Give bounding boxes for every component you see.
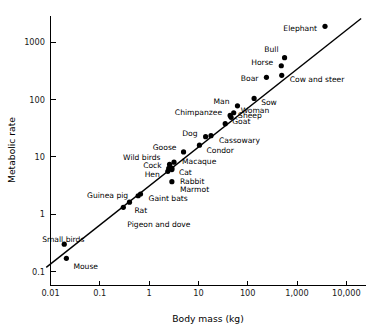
data-point	[279, 73, 284, 78]
data-point-label: Mouse	[73, 262, 98, 271]
x-axis-ticks: 0.010.11101001,00010,000	[41, 281, 360, 299]
x-axis-title: Body mass (kg)	[172, 313, 244, 324]
x-tick-label: 0.1	[93, 288, 106, 298]
y-tick-label: 10	[35, 152, 45, 162]
data-point	[203, 134, 208, 139]
data-point-label: Condor	[206, 146, 234, 155]
y-tick-label: 1	[40, 209, 45, 219]
data-point-label: Sow	[261, 98, 277, 107]
data-point	[208, 133, 213, 138]
y-tick-label: 0.1	[32, 267, 45, 277]
x-tick-label: 100	[240, 288, 256, 298]
data-point	[235, 103, 240, 108]
data-point-label: Hen	[145, 170, 160, 179]
y-axis-title: Metabolic rate	[6, 117, 17, 183]
data-point-label: Cat	[179, 168, 192, 177]
data-point-label: Gaint bats	[149, 194, 188, 203]
data-point	[169, 167, 174, 172]
data-point	[181, 149, 186, 154]
x-tick-label: 1	[146, 288, 151, 298]
x-tick-label: 0.01	[41, 288, 59, 298]
data-point	[169, 179, 174, 184]
data-point	[171, 160, 176, 165]
data-point	[121, 205, 126, 210]
data-point	[322, 24, 327, 29]
data-point	[252, 96, 257, 101]
y-tick-label: 100	[29, 95, 45, 105]
data-point-label: Cow and steer	[290, 75, 346, 84]
regression-line	[46, 19, 361, 268]
data-point	[264, 75, 269, 80]
data-point-label: Pigeon and dove	[127, 220, 191, 229]
data-point	[282, 55, 287, 60]
data-point	[279, 63, 284, 68]
data-point	[197, 143, 202, 148]
data-point	[231, 110, 236, 115]
data-point-label: Cassowary	[219, 136, 261, 145]
data-point-label: Marmot	[180, 185, 209, 194]
data-point-label: Small birds	[42, 235, 84, 244]
x-tick-label: 10,000	[332, 288, 361, 298]
data-point-label: Wild birds	[123, 153, 161, 162]
allometric-fit-line	[46, 19, 361, 268]
data-point	[167, 162, 172, 167]
data-point-label: Boar	[241, 74, 260, 83]
x-tick-label: 1,000	[285, 288, 308, 298]
data-point-label: Macaque	[182, 157, 217, 166]
data-point-label: Guinea pig	[87, 191, 128, 200]
data-point-label: Chimpanzee	[175, 108, 223, 117]
data-point	[223, 121, 228, 126]
data-point-label: Rat	[134, 206, 147, 215]
data-point-label: Goose	[153, 143, 177, 152]
data-point	[138, 191, 143, 196]
data-point-label: Dog	[182, 129, 197, 138]
data-point-label: Bull	[264, 45, 278, 54]
data-point	[127, 200, 132, 205]
data-point-label: Horse	[251, 58, 273, 67]
metabolic-rate-scatter-chart: 0.010.11101001,00010,000 0.11101001000 M…	[0, 0, 376, 331]
chart-canvas: 0.010.11101001,00010,000 0.11101001000 M…	[0, 0, 376, 331]
data-point	[64, 256, 69, 261]
data-point-label: Elephant	[283, 24, 317, 33]
data-point-label: Woman	[241, 106, 270, 115]
data-point-label: Man	[213, 97, 229, 106]
y-tick-label: 1000	[24, 37, 45, 47]
data-point-label: Cock	[143, 161, 162, 170]
x-tick-label: 10	[193, 288, 203, 298]
